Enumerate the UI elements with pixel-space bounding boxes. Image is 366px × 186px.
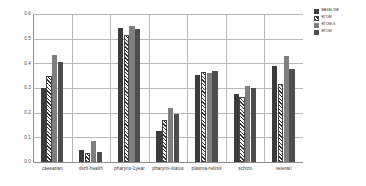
y-tick-label: 0.2 <box>1 110 31 115</box>
bar <box>85 153 90 162</box>
legend-label: BTOM <box>321 30 331 34</box>
y-tick-label: 0.6 <box>1 11 31 16</box>
bar <box>195 75 200 162</box>
x-axis-label: schizo <box>226 166 265 171</box>
x-axis-label: caesarian <box>33 166 72 171</box>
legend-label: BTOM <box>321 16 331 20</box>
bar-group <box>41 14 64 162</box>
group-separator <box>149 14 150 162</box>
bar <box>135 29 140 162</box>
group-separator <box>110 14 111 162</box>
bar <box>174 114 179 162</box>
chart-legend: BASELINEBTOMBTOM-SBTOM <box>314 8 362 36</box>
bar <box>46 76 51 162</box>
bar <box>58 62 63 162</box>
bar-chart: 0.60.50.40.30.20.10.0 caesariandsrft-hea… <box>0 0 366 186</box>
legend-item: BTOM-S <box>314 22 362 28</box>
legend-swatch-icon <box>314 30 319 35</box>
bar <box>97 152 102 162</box>
group-separator <box>264 14 265 162</box>
y-tick-label: 0.0 <box>1 159 31 164</box>
legend-swatch-icon <box>314 9 319 14</box>
bar-group <box>156 14 179 162</box>
group-separator <box>226 14 227 162</box>
bar-group <box>118 14 141 162</box>
bar-group <box>234 14 257 162</box>
bar <box>284 56 289 162</box>
group-separator <box>187 14 188 162</box>
x-axis-label: pharynx-1year <box>110 166 149 171</box>
x-axis-label: veteran <box>264 166 303 171</box>
bar <box>168 108 173 162</box>
bar <box>212 71 217 162</box>
legend-item: BTOM <box>314 15 362 21</box>
bar-group <box>79 14 102 162</box>
x-axis-line <box>33 162 303 163</box>
bar-group <box>195 14 218 162</box>
bar <box>156 131 161 162</box>
bar <box>272 66 277 162</box>
x-axis-label: plasma-retinol <box>187 166 226 171</box>
legend-item: BASELINE <box>314 8 362 14</box>
bar <box>245 86 250 162</box>
legend-swatch-icon <box>314 23 319 28</box>
y-tick-label: 0.3 <box>1 85 31 90</box>
legend-item: BTOM <box>314 29 362 35</box>
x-axis-label: pharynx-status <box>149 166 188 171</box>
legend-label: BTOM-S <box>321 23 335 27</box>
bar <box>278 84 283 162</box>
bar <box>129 26 134 162</box>
bar <box>91 141 96 162</box>
bar <box>162 120 167 162</box>
legend-label: BASELINE <box>321 9 339 13</box>
group-separator <box>72 14 73 162</box>
bar <box>41 88 46 162</box>
bar <box>201 72 206 162</box>
legend-swatch-icon <box>314 16 319 21</box>
bar <box>207 73 212 162</box>
plot-area <box>33 14 303 162</box>
bar <box>124 35 129 162</box>
y-tick-label: 0.1 <box>1 135 31 140</box>
bar <box>289 69 294 162</box>
y-tick-label: 0.4 <box>1 61 31 66</box>
bar <box>52 55 57 162</box>
y-axis-ticks: 0.60.50.40.30.20.10.0 <box>0 14 31 162</box>
bar-group <box>272 14 295 162</box>
y-tick-label: 0.5 <box>1 36 31 41</box>
bar <box>118 28 123 162</box>
bar <box>239 97 244 162</box>
bar <box>79 150 84 162</box>
bar <box>251 88 256 162</box>
bar <box>234 94 239 162</box>
x-axis-label: dsrft-health <box>72 166 111 171</box>
